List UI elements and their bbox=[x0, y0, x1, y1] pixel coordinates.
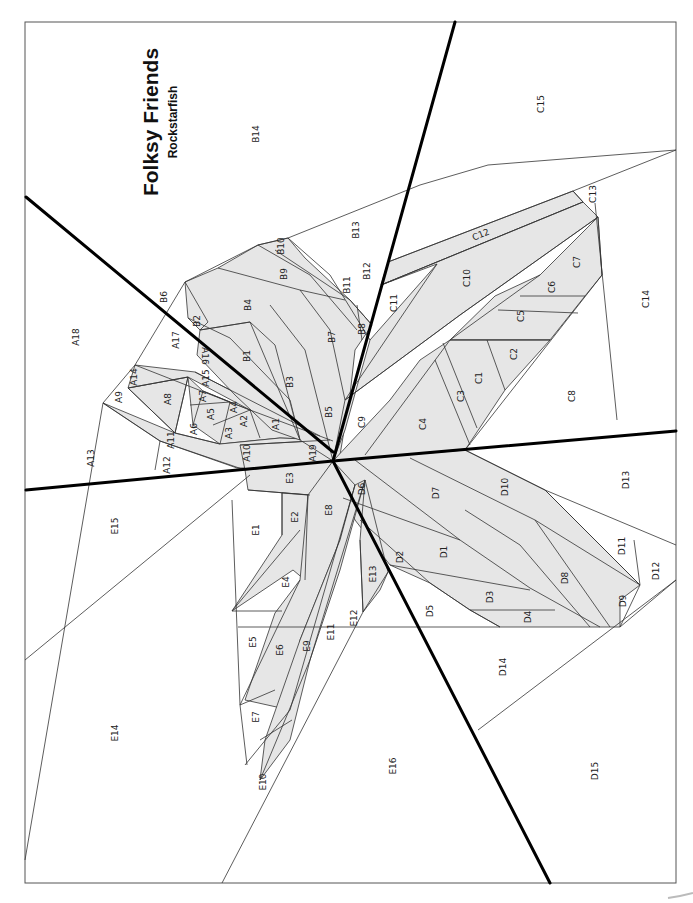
label-a19: A19 bbox=[308, 444, 318, 462]
label-e15: E15 bbox=[110, 517, 120, 534]
label-d7: D7 bbox=[431, 487, 441, 500]
label-b4: B4 bbox=[243, 299, 253, 311]
label-e1: E1 bbox=[251, 524, 261, 535]
label-c1: C1 bbox=[474, 372, 484, 384]
label-e16: E16 bbox=[388, 757, 398, 774]
label-b7: B7 bbox=[327, 331, 337, 343]
label-b11: B11 bbox=[342, 276, 352, 294]
label-c7: C7 bbox=[572, 256, 582, 268]
label-e7: E7 bbox=[251, 711, 261, 722]
label-d13: D13 bbox=[621, 471, 631, 489]
label-a16: A16 bbox=[200, 347, 210, 365]
label-a2: A2 bbox=[239, 415, 249, 427]
pattern-subtitle: Rockstarfish bbox=[166, 86, 180, 159]
label-d2: D2 bbox=[395, 551, 405, 564]
page-curl bbox=[668, 893, 693, 898]
label-c2: C2 bbox=[509, 348, 519, 360]
label-e13: E13 bbox=[368, 565, 378, 582]
label-a18: A18 bbox=[71, 328, 81, 346]
label-b12: B12 bbox=[362, 262, 372, 280]
label-d10: D10 bbox=[500, 478, 510, 497]
label-b14: B14 bbox=[251, 125, 261, 143]
label-b6: B6 bbox=[159, 291, 169, 303]
label-a13: A13 bbox=[86, 449, 96, 467]
label-a10: A10 bbox=[242, 444, 252, 462]
label-c14: C14 bbox=[641, 290, 651, 308]
label-d9: D9 bbox=[618, 594, 628, 607]
label-d8: D8 bbox=[560, 571, 570, 584]
label-a7: A7 bbox=[198, 390, 208, 402]
label-e2: E2 bbox=[290, 511, 300, 522]
label-d1: D1 bbox=[439, 546, 449, 559]
label-e4: E4 bbox=[281, 576, 291, 588]
label-a11: A11 bbox=[166, 431, 176, 449]
label-a8: A8 bbox=[163, 393, 173, 405]
label-e9: E9 bbox=[302, 640, 312, 652]
pattern-title: Folksy Friends bbox=[139, 48, 162, 196]
label-b3: B3 bbox=[285, 376, 295, 388]
label-a9: A9 bbox=[114, 391, 124, 403]
label-d11: D11 bbox=[617, 537, 627, 555]
label-e6: E6 bbox=[275, 644, 285, 656]
label-c10: C10 bbox=[462, 269, 472, 287]
label-a14: A14 bbox=[129, 368, 139, 386]
label-e10: E10 bbox=[258, 773, 268, 790]
label-e8: E8 bbox=[324, 504, 334, 516]
label-c8: C8 bbox=[567, 390, 577, 402]
label-d6: D6 bbox=[357, 482, 367, 495]
label-b5: B5 bbox=[324, 406, 334, 418]
label-a12: A12 bbox=[162, 456, 172, 474]
paper-piecing-pattern: Folksy Friends Rockstarfish A1 A2 A3 A4 … bbox=[0, 0, 693, 903]
label-b10: B10 bbox=[276, 237, 286, 255]
label-d3: D3 bbox=[485, 591, 495, 604]
label-d15: D15 bbox=[590, 762, 600, 780]
label-d4: D4 bbox=[523, 610, 533, 623]
label-e11: E11 bbox=[326, 623, 336, 640]
label-b8: B8 bbox=[357, 323, 367, 335]
label-d12: D12 bbox=[651, 562, 661, 580]
label-e3: E3 bbox=[285, 472, 295, 483]
label-b9: B9 bbox=[279, 268, 289, 280]
label-c15: C15 bbox=[536, 95, 546, 113]
label-c5: C5 bbox=[516, 310, 526, 322]
label-b2: B2 bbox=[192, 315, 202, 327]
label-b13: B13 bbox=[351, 221, 361, 239]
label-a1: A1 bbox=[271, 418, 281, 430]
label-a15: A15 bbox=[201, 369, 211, 387]
label-a3: A3 bbox=[224, 427, 234, 439]
label-a6: A6 bbox=[189, 423, 199, 435]
label-e5: E5 bbox=[248, 636, 258, 647]
label-c4: C4 bbox=[418, 418, 428, 430]
label-b1: B1 bbox=[242, 350, 252, 362]
label-c9: C9 bbox=[357, 416, 367, 428]
label-c13: C13 bbox=[588, 185, 598, 203]
label-d14: D14 bbox=[498, 658, 508, 677]
label-c6: C6 bbox=[547, 281, 557, 293]
label-a17: A17 bbox=[171, 331, 181, 349]
label-a4: A4 bbox=[229, 401, 239, 413]
label-d5: D5 bbox=[425, 605, 435, 618]
label-e12: E12 bbox=[349, 609, 359, 626]
label-c11: C11 bbox=[389, 294, 399, 312]
label-c3: C3 bbox=[456, 390, 466, 402]
label-e14: E14 bbox=[110, 724, 120, 741]
label-a5: A5 bbox=[206, 408, 216, 420]
